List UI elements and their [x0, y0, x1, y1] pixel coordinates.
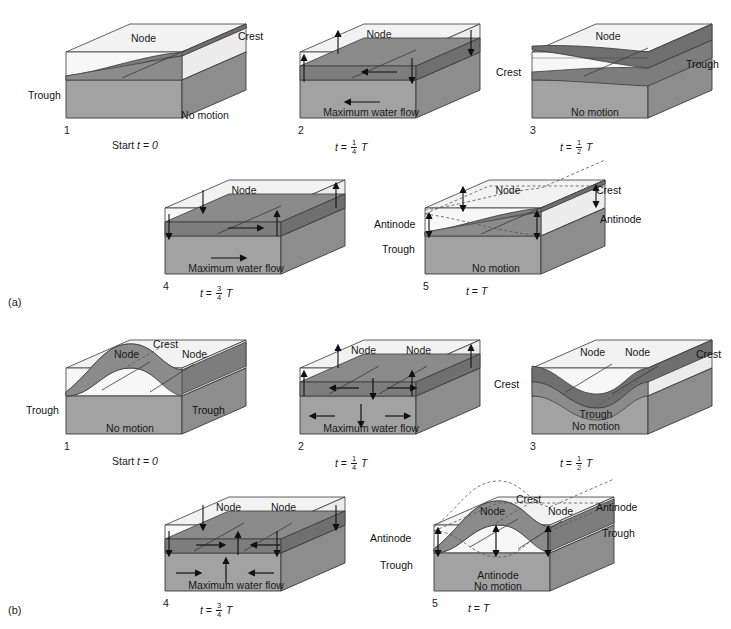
panel-number-a1: 1	[64, 124, 70, 136]
label-node-right-b4: Node	[271, 501, 296, 513]
time-caption-b2: t = 14 T	[335, 455, 367, 471]
time-eq-a4: =	[206, 287, 212, 299]
time-prefix-b1: Start	[112, 455, 134, 467]
panel-a2: Node Maximum water flow 2	[275, 14, 510, 139]
label-crest-a3: Crest	[496, 66, 521, 78]
panel-number-a4: 4	[163, 280, 169, 292]
label-node-a1: Node	[131, 32, 156, 44]
time-value-b5: T	[483, 602, 489, 614]
box-a5	[425, 160, 605, 274]
time-eq-b4: =	[206, 604, 212, 616]
panel-a5: Node No motion 5 Crest Antinode Antinode…	[400, 170, 650, 295]
time-var-b2: t	[335, 457, 338, 469]
time-prefix-a1: Start	[112, 139, 134, 151]
panel-number-a2: 2	[298, 124, 304, 136]
time-fraction-b2: 14	[351, 455, 357, 471]
box-a3	[532, 24, 712, 118]
panel-b5: Node Node Crest Antinode No motion 5 Ant…	[398, 487, 658, 612]
box-b1	[66, 340, 246, 434]
label-trough-a3: Trough	[686, 58, 719, 70]
time-eq-a1: =	[143, 139, 149, 151]
time-T-b2: T	[361, 457, 367, 469]
panel-a1: Node No motion 1 Crest Trough	[30, 14, 270, 139]
label-crest-a1: Crest	[238, 30, 263, 42]
label-no-motion-b5: No motion	[474, 580, 522, 592]
seiche-figure: (a) Node No motion 1 Crest	[0, 0, 731, 629]
time-var-a1: t	[137, 139, 140, 151]
label-crest-b1: Crest	[153, 338, 178, 350]
time-eq-b2: =	[341, 457, 347, 469]
time-T-a2: T	[361, 141, 367, 153]
label-node-right-b1: Node	[182, 348, 207, 360]
time-var-a5: t	[466, 285, 469, 297]
label-node-left-b3: Node	[580, 346, 605, 358]
time-caption-a1: Start t = 0	[112, 139, 158, 151]
panel-number-a5: 5	[423, 280, 429, 292]
panel-b4: Node Node Maximum water flow 4	[140, 487, 390, 612]
label-trough-right-b5: Trough	[602, 527, 635, 539]
label-no-motion-a5: No motion	[472, 262, 520, 274]
time-eq-b3: =	[566, 457, 572, 469]
label-node-left-b1: Node	[114, 348, 139, 360]
time-caption-b3: t = 12 T	[560, 455, 592, 471]
time-value-a5: T	[481, 285, 487, 297]
time-eq-b1: =	[143, 455, 149, 467]
time-value-b1: 0	[152, 455, 158, 467]
label-no-motion-b1: No motion	[106, 422, 154, 434]
time-T-b3: T	[586, 457, 592, 469]
label-node-right-b5: Node	[548, 505, 573, 517]
time-var-b1: t	[137, 455, 140, 467]
time-var-b3: t	[560, 457, 563, 469]
panel-number-b4: 4	[163, 597, 169, 609]
time-eq-a3: =	[566, 141, 572, 153]
time-var-a3: t	[560, 141, 563, 153]
label-no-motion-b3: No motion	[572, 420, 620, 432]
box-b2	[300, 340, 480, 434]
time-T-b4: T	[226, 604, 232, 616]
section-label-a: (a)	[8, 296, 21, 308]
label-node-a4: Node	[231, 184, 256, 196]
label-crest-b5: Crest	[516, 493, 541, 505]
label-no-motion-a3: No motion	[571, 106, 619, 118]
label-trough-left-b1: Trough	[26, 404, 59, 416]
time-eq-b5: =	[474, 602, 480, 614]
box-b3	[532, 340, 712, 434]
time-caption-b5: t = T	[468, 602, 489, 614]
panel-number-b5: 5	[432, 597, 438, 609]
label-node-right-b3: Node	[625, 346, 650, 358]
label-node-left-b4: Node	[216, 501, 241, 513]
time-fraction-b3: 12	[576, 455, 582, 471]
panel-b3: Node Node Trough No motion 3 Crest Crest	[500, 330, 730, 455]
time-caption-b4: t = 34 T	[200, 602, 232, 618]
panel-a4: Node Maximum water flow 4	[140, 170, 390, 295]
label-max-flow-a2: Maximum water flow	[323, 106, 419, 118]
label-node-a5: Node	[495, 184, 520, 196]
time-var-a4: t	[200, 287, 203, 299]
label-node-a3: Node	[595, 30, 620, 42]
section-label-b: (b)	[8, 604, 21, 616]
panel-number-b3: 3	[530, 440, 536, 452]
time-var-a2: t	[335, 141, 338, 153]
time-caption-a3: t = 12 T	[560, 139, 592, 155]
panel-number-b1: 1	[64, 440, 70, 452]
panel-a3: Node No motion 3 Crest Trough	[500, 14, 730, 139]
panel-b2: Node Node Maximum water flow 2	[275, 330, 515, 455]
label-no-motion-a1: No motion	[181, 109, 229, 121]
label-antinode-right-b5: Antinode	[596, 501, 637, 513]
label-max-flow-b4: Maximum water flow	[188, 579, 284, 591]
panel-b1: Node Node Crest No motion 1 Trough Troug…	[30, 330, 280, 455]
time-value-a1: 0	[152, 139, 158, 151]
label-trough-a1: Trough	[28, 89, 61, 101]
label-node-left-b5: Node	[480, 505, 505, 517]
time-caption-a2: t = 14 T	[335, 139, 367, 155]
label-crest-left-b3: Crest	[494, 378, 519, 390]
label-trough-left-b5: Trough	[380, 559, 413, 571]
label-trough-b3: Trough	[580, 408, 613, 420]
time-T-a3: T	[586, 141, 592, 153]
label-antinode-right-a5: Antinode	[600, 213, 641, 225]
label-antinode-left-a5: Antinode	[374, 218, 415, 230]
label-crest-right-b3: Crest	[696, 348, 721, 360]
label-max-flow-a4: Maximum water flow	[188, 262, 284, 274]
time-caption-b1: Start t = 0	[112, 455, 158, 467]
label-crest-a5: Crest	[596, 184, 621, 196]
